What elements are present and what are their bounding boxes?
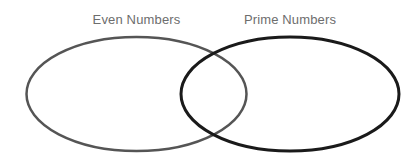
venn-canvas — [0, 0, 420, 163]
venn-label-even-numbers: Even Numbers — [93, 13, 181, 26]
venn-label-prime-numbers: Prime Numbers — [244, 13, 336, 26]
venn-diagram: Even Numbers Prime Numbers — [0, 0, 420, 163]
venn-circle-prime-numbers — [181, 37, 399, 151]
